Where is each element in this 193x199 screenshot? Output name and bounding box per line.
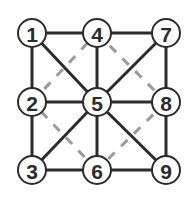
node-label: 1 (26, 23, 38, 46)
node-7: 7 (152, 19, 180, 47)
node-3: 3 (18, 156, 46, 184)
node-4: 4 (83, 19, 111, 47)
node-label: 6 (91, 160, 103, 183)
node-label: 7 (160, 23, 172, 46)
node-label: 3 (26, 160, 38, 183)
node-6: 6 (83, 156, 111, 184)
node-label: 4 (91, 23, 103, 46)
node-8: 8 (152, 88, 180, 116)
node-2: 2 (18, 88, 46, 116)
node-5: 5 (83, 88, 111, 116)
node-label: 2 (26, 92, 38, 115)
node-label: 9 (160, 160, 172, 183)
node-label: 5 (91, 92, 103, 115)
nodes: 123456789 (18, 19, 180, 184)
node-9: 9 (152, 156, 180, 184)
node-label: 8 (160, 92, 172, 115)
graph-diagram: 123456789 (0, 0, 193, 199)
node-1: 1 (18, 19, 46, 47)
